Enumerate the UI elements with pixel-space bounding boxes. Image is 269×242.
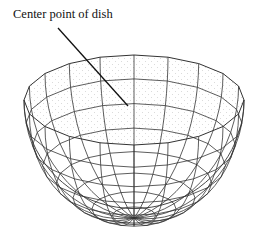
dish-diagram: Center point of dish [0, 0, 269, 242]
callout-label: Center point of dish [13, 7, 113, 22]
dish-wireframe [0, 0, 269, 242]
